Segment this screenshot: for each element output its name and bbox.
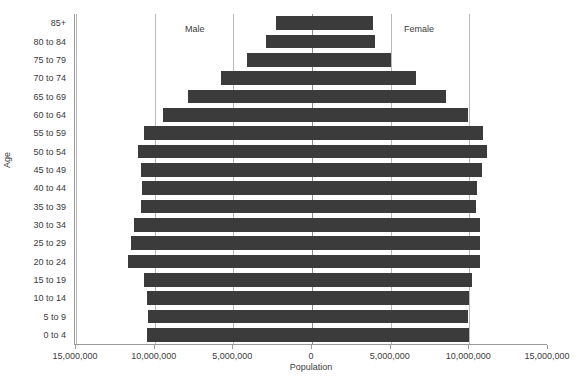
bar-female: [312, 181, 477, 195]
bar-male: [128, 255, 312, 269]
bar-female: [312, 16, 373, 30]
x-axis-tick-label: 5,000,000: [370, 351, 410, 361]
bar-row: [75, 108, 548, 122]
x-axis-title: Population: [290, 362, 333, 372]
bar-female: [312, 90, 446, 104]
bar-female: [312, 71, 416, 85]
y-axis-tick-label: 10 to 14: [33, 293, 66, 303]
y-axis-tick-label: 85+: [51, 18, 66, 28]
y-axis-tick-label: 75 to 79: [33, 55, 66, 65]
x-axis-tick-mark: [547, 345, 548, 349]
bar-female: [312, 35, 375, 49]
bar-male: [141, 200, 312, 214]
y-axis-tick-label: 40 to 44: [33, 183, 66, 193]
bar-male: [247, 53, 312, 67]
bar-row: [75, 328, 548, 342]
bar-row: [75, 291, 548, 305]
bar-row: [75, 218, 548, 232]
annotation-male: Male: [185, 24, 205, 34]
y-axis-tick-label: 0 to 4: [43, 330, 66, 340]
bar-female: [312, 200, 476, 214]
bar-row: [75, 236, 548, 250]
bar-row: [75, 35, 548, 49]
y-axis-tick-label: 80 to 84: [33, 37, 66, 47]
x-axis-tick-label: 5,000,000: [212, 351, 252, 361]
x-axis-tick-mark: [154, 345, 155, 349]
bar-female: [312, 126, 483, 140]
bar-male: [134, 218, 312, 232]
y-axis-tick-label: 45 to 49: [33, 165, 66, 175]
y-axis-tick-label: 20 to 24: [33, 257, 66, 267]
bar-male: [276, 16, 312, 30]
bar-male: [188, 90, 312, 104]
bar-female: [312, 163, 482, 177]
y-axis-tick-label: 15 to 19: [33, 275, 66, 285]
x-axis-tick-mark: [311, 345, 312, 349]
bar-female: [312, 328, 469, 342]
y-axis-tick-label: 70 to 74: [33, 73, 66, 83]
bar-male: [131, 236, 312, 250]
bar-female: [312, 291, 469, 305]
bar-male: [138, 145, 312, 159]
x-axis-tick-mark: [468, 345, 469, 349]
bar-row: [75, 181, 548, 195]
bar-female: [312, 53, 391, 67]
bar-row: [75, 255, 548, 269]
bar-male: [144, 273, 312, 287]
y-axis-tick-label: 60 to 64: [33, 110, 66, 120]
x-axis-tick-mark: [75, 345, 76, 349]
bar-male: [144, 126, 312, 140]
bar-row: [75, 310, 548, 324]
y-axis-tick-label: 65 to 69: [33, 92, 66, 102]
x-axis-tick-mark: [390, 345, 391, 349]
bar-row: [75, 53, 548, 67]
y-axis-tick-label: 30 to 34: [33, 220, 66, 230]
x-axis-tick-label: 15,000,000: [52, 351, 97, 361]
bar-row: [75, 16, 548, 30]
bar-female: [312, 145, 487, 159]
bar-female: [312, 273, 472, 287]
y-axis-tick-label: 25 to 29: [33, 238, 66, 248]
bar-row: [75, 71, 548, 85]
bar-row: [75, 90, 548, 104]
bar-female: [312, 236, 480, 250]
x-axis-tick-label: 15,000,000: [524, 351, 569, 361]
plot-area: [74, 14, 547, 345]
bar-row: [75, 163, 548, 177]
bar-male: [163, 108, 312, 122]
bar-female: [312, 108, 468, 122]
y-axis-tick-label: 5 to 9: [43, 312, 66, 322]
y-axis-tick-label: 35 to 39: [33, 202, 66, 212]
y-axis-tick-label: 55 to 59: [33, 128, 66, 138]
population-pyramid-chart: Age 0 to 45 to 910 to 1415 to 1920 to 24…: [0, 0, 579, 377]
x-axis-tick-label: 0: [308, 351, 313, 361]
bar-male: [221, 71, 312, 85]
y-axis-tick-label: 50 to 54: [33, 147, 66, 157]
bar-male: [266, 35, 312, 49]
x-axis-tick-label: 10,000,000: [131, 351, 176, 361]
x-axis-tick-mark: [232, 345, 233, 349]
annotation-female: Female: [404, 24, 434, 34]
bar-row: [75, 126, 548, 140]
bar-male: [147, 291, 312, 305]
bar-row: [75, 200, 548, 214]
bar-row: [75, 145, 548, 159]
y-axis-tick-labels: 0 to 45 to 910 to 1415 to 1920 to 2425 t…: [0, 14, 70, 345]
bar-female: [312, 310, 468, 324]
bar-row: [75, 273, 548, 287]
bar-female: [312, 218, 480, 232]
x-axis-tick-label: 10,000,000: [446, 351, 491, 361]
bar-female: [312, 255, 480, 269]
bar-male: [141, 163, 312, 177]
plot-inner: [75, 14, 548, 344]
bar-male: [142, 181, 312, 195]
bar-male: [147, 328, 312, 342]
bar-male: [148, 310, 312, 324]
